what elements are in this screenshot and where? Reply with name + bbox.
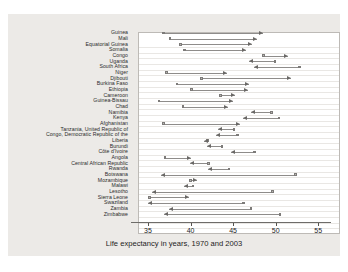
end-arrow-2003 [216, 133, 220, 137]
gridline [139, 228, 339, 229]
start-marker-1970 [189, 179, 192, 182]
end-arrow-2003 [223, 71, 227, 75]
gridline [139, 115, 339, 116]
gridline [139, 149, 339, 150]
gridline [139, 109, 339, 110]
gridline [139, 177, 339, 178]
axis-tick [233, 223, 234, 226]
change-segment [191, 90, 248, 91]
end-arrow-2003 [207, 144, 211, 148]
end-arrow-2003 [251, 110, 255, 114]
axis-tick-label: 45 [229, 227, 237, 234]
start-marker-1970 [182, 105, 185, 108]
end-arrow-2003 [193, 178, 197, 182]
start-marker-1970 [192, 185, 195, 188]
gridline [139, 217, 339, 218]
chart-figure: GuineaMaliEquatorial GuineaSomaliaCongoU… [0, 0, 348, 272]
start-marker-1970 [179, 43, 182, 46]
start-marker-1970 [165, 71, 168, 74]
start-marker-1970 [164, 156, 167, 159]
gridline [139, 104, 339, 105]
gridline [139, 132, 339, 133]
change-segment [170, 39, 257, 40]
end-arrow-2003 [231, 93, 235, 97]
change-segment [164, 214, 280, 215]
end-arrow-2003 [245, 82, 249, 86]
axis-tick-label: 55 [314, 227, 322, 234]
gridline [139, 166, 339, 167]
start-marker-1970 [183, 49, 186, 52]
start-marker-1970 [176, 83, 179, 86]
category-label: Zimbabwe [104, 212, 128, 217]
change-segment [167, 73, 227, 74]
end-arrow-2003 [184, 184, 188, 188]
end-arrow-2003 [231, 150, 235, 154]
end-arrow-2003 [161, 173, 165, 177]
end-arrow-2003 [287, 76, 291, 80]
end-arrow-2003 [208, 167, 212, 171]
axis-tick-label: 40 [187, 227, 195, 234]
axis-line [131, 222, 331, 223]
end-arrow-2003 [218, 127, 222, 131]
gridline [139, 98, 339, 99]
start-marker-1970 [221, 145, 224, 148]
gridline [139, 200, 339, 201]
start-marker-1970 [236, 134, 239, 137]
start-marker-1970 [219, 94, 222, 97]
end-arrow-2003 [244, 88, 248, 92]
end-arrow-2003 [148, 201, 152, 205]
start-marker-1970 [262, 54, 265, 57]
start-marker-1970 [233, 128, 236, 131]
start-marker-1970 [278, 117, 281, 120]
end-arrow-2003 [249, 59, 253, 63]
start-marker-1970 [271, 190, 274, 193]
start-marker-1970 [279, 213, 282, 216]
end-arrow-2003 [259, 31, 263, 35]
change-segment [254, 67, 300, 68]
gridline [139, 194, 339, 195]
change-segment [169, 209, 251, 210]
end-arrow-2003 [224, 105, 228, 109]
end-arrow-2003 [187, 156, 191, 160]
x-axis-title: Life expectancy in years, 1970 and 2003 [0, 239, 348, 248]
gridline [139, 92, 339, 93]
start-marker-1970 [294, 173, 297, 176]
end-arrow-2003 [253, 37, 257, 41]
change-segment [202, 78, 291, 79]
change-segment [180, 44, 251, 45]
gridline [139, 126, 339, 127]
axis-tick [276, 223, 277, 226]
axis-tick [148, 223, 149, 226]
change-segment [150, 197, 189, 198]
start-marker-1970 [162, 32, 165, 35]
gridline [139, 58, 339, 59]
gridline [139, 75, 339, 76]
axis-tick [191, 223, 192, 226]
gridline [139, 211, 339, 212]
start-marker-1970 [250, 207, 253, 210]
start-marker-1970 [148, 196, 151, 199]
gridline [139, 183, 339, 184]
gridline [139, 87, 339, 88]
end-arrow-2003 [284, 54, 288, 58]
end-arrow-2003 [190, 161, 194, 165]
start-marker-1970 [190, 88, 193, 91]
gridline [139, 172, 339, 173]
end-arrow-2003 [164, 212, 168, 216]
change-segment [163, 33, 263, 34]
change-segment [148, 203, 243, 204]
start-marker-1970 [228, 168, 231, 171]
change-segment [185, 50, 246, 51]
end-arrow-2003 [254, 65, 258, 69]
start-marker-1970 [200, 77, 203, 80]
axis-tick-label: 50 [272, 227, 280, 234]
start-marker-1970 [270, 111, 273, 114]
end-arrow-2003 [185, 195, 189, 199]
gridline [139, 138, 339, 139]
gridline [139, 64, 339, 65]
start-marker-1970 [162, 122, 165, 125]
start-marker-1970 [253, 151, 256, 154]
start-marker-1970 [207, 162, 210, 165]
gridline [139, 160, 339, 161]
change-segment [177, 84, 249, 85]
